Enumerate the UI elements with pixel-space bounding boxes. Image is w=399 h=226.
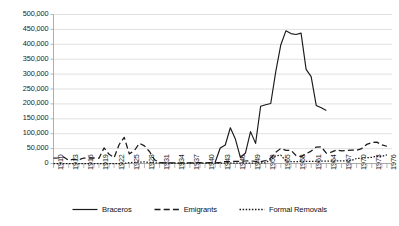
- legend-label: Emigrants: [184, 205, 217, 214]
- chart-container: 050,000100,000150,000200,000250,000300,0…: [0, 0, 399, 226]
- legend-swatch-dotted: [239, 206, 265, 213]
- legend-swatch-dashed: [154, 206, 180, 213]
- legend-label: Formal Removals: [269, 205, 327, 214]
- legend-swatch-solid: [72, 206, 98, 213]
- series-line-braceros: [215, 31, 326, 162]
- legend-label: Braceros: [102, 205, 132, 214]
- legend-item-braceros[interactable]: Braceros: [72, 205, 132, 214]
- chart-plot-area: [0, 0, 399, 226]
- chart-legend: BracerosEmigrantsFormal Removals: [0, 198, 399, 220]
- series-line-emigrants: [54, 137, 387, 163]
- legend-item-emigrants[interactable]: Emigrants: [154, 205, 217, 214]
- legend-item-formal-removals[interactable]: Formal Removals: [239, 205, 327, 214]
